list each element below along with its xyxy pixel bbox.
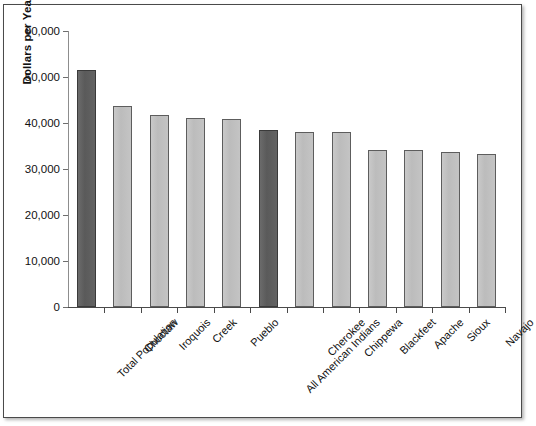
bar — [186, 118, 205, 307]
x-axis-tick-label: Sioux — [464, 316, 492, 344]
x-axis-tick-mark — [250, 307, 251, 313]
y-axis-tick-mark — [63, 31, 68, 32]
y-axis-tick-mark — [63, 123, 68, 124]
y-axis-title: Dollars per Year — [21, 0, 33, 125]
bar — [477, 154, 496, 307]
x-axis-tick-mark — [104, 307, 105, 313]
x-axis-tick-mark — [177, 307, 178, 313]
y-axis-tick-mark — [63, 261, 68, 262]
bar — [332, 132, 351, 307]
x-axis-tick-mark — [505, 307, 506, 313]
x-axis-tick-label: Iroquois — [176, 316, 212, 352]
bar — [295, 132, 314, 307]
y-axis-tick-mark — [63, 169, 68, 170]
y-axis-tick-mark — [63, 307, 68, 308]
y-axis-tick-label: 30,000 — [2, 163, 68, 175]
bar — [113, 106, 132, 307]
x-axis-tick-mark — [287, 307, 288, 313]
x-axis-tick-label: Creek — [210, 316, 239, 345]
x-axis-tick-mark — [396, 307, 397, 313]
x-axis-tick-mark — [214, 307, 215, 313]
bar — [77, 70, 96, 307]
y-axis-tick-label: 10,000 — [2, 255, 68, 267]
x-axis-tick-label: Choctaw — [141, 316, 180, 355]
bar — [441, 152, 460, 307]
x-axis-tick-label: Navajo — [503, 316, 536, 349]
y-axis-tick-label: 0 — [2, 301, 68, 313]
y-axis-tick-label: 60,000 — [2, 25, 68, 37]
bar — [404, 150, 423, 307]
y-axis-tick-label: 40,000 — [2, 117, 68, 129]
y-axis-line — [68, 31, 69, 307]
x-axis-tick-label: Pueblo — [248, 316, 281, 349]
y-axis-tick-label: 50,000 — [2, 71, 68, 83]
bar — [150, 115, 169, 307]
bar — [259, 130, 278, 307]
x-axis-tick-mark — [432, 307, 433, 313]
bar — [222, 119, 241, 307]
bar — [368, 150, 387, 307]
chart-frame: Dollars per Year 010,00020,00030,00040,0… — [3, 4, 522, 418]
plot-area: Dollars per Year 010,00020,00030,00040,0… — [68, 31, 505, 307]
x-axis-tick-mark — [359, 307, 360, 313]
x-axis-tick-label: Apache — [431, 316, 466, 351]
y-axis-tick-mark — [63, 215, 68, 216]
x-axis-tick-mark — [469, 307, 470, 313]
x-axis-tick-mark — [323, 307, 324, 313]
x-axis-tick-mark — [141, 307, 142, 313]
y-axis-tick-label: 20,000 — [2, 209, 68, 221]
y-axis-tick-mark — [63, 77, 68, 78]
